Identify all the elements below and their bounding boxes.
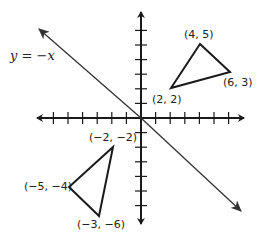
coordinate-plane-diagram: y = −x (4, 5) (6, 3) (2, 2) (−2, −2) (−5… [0, 0, 258, 234]
triangle-original: (4, 5) (6, 3) (2, 2) [152, 28, 253, 106]
vertex-label: (−5, −4) [24, 180, 72, 193]
vertex-label: (−3, −6) [77, 218, 125, 231]
vertex-label: (6, 3) [223, 76, 253, 89]
vertex-label: (2, 2) [152, 93, 182, 106]
triangle-reflected: (−2, −2) (−5, −4) (−3, −6) [24, 131, 137, 231]
vertex-label: (−2, −2) [89, 131, 137, 144]
vertex-label: (4, 5) [184, 28, 214, 41]
line-equation-label: y = −x [9, 48, 55, 63]
